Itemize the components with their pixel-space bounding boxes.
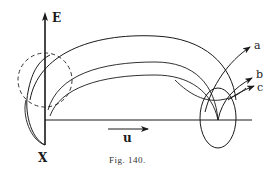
figure-140-diagram: E X u a b c Fig. 140. [0, 0, 274, 175]
label-e: E [52, 11, 61, 25]
label-x: X [38, 151, 48, 165]
label-a: a [254, 39, 261, 52]
outer-arc [30, 36, 236, 100]
figure-caption: Fig. 140. [109, 155, 146, 165]
label-u: u [123, 131, 132, 145]
trajectory-b [218, 78, 252, 120]
inner-arc [50, 75, 218, 120]
label-b: b [256, 68, 263, 81]
label-c: c [257, 81, 263, 94]
